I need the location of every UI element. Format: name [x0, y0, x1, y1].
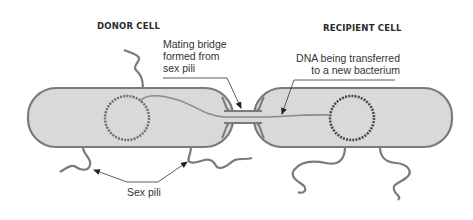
- dna-transfer-annotation: DNA being transferred to a new bacterium: [296, 52, 400, 76]
- conjugation-diagram: [0, 0, 473, 220]
- mating-bridge-line2: formed from: [163, 50, 227, 62]
- mating-bridge-line3: sex pili: [163, 62, 227, 74]
- dna-transfer-line1: DNA being transferred: [296, 52, 400, 64]
- dna-transfer-line2: to a new bacterium: [296, 64, 400, 76]
- recipient-cell-label: RECIPIENT CELL: [323, 22, 402, 34]
- mating-bridge-annotation: Mating bridge formed from sex pili: [163, 38, 227, 74]
- sex-pili-label: Sex pili: [127, 186, 161, 198]
- sex-pili-leader-left: [94, 170, 127, 182]
- donor-cell-label: DONOR CELL: [97, 20, 160, 32]
- donor-bottom-right-pilus: [188, 147, 252, 168]
- donor-top-pilus: [124, 50, 143, 88]
- recipient-bottom-left-pilus: [293, 147, 345, 193]
- donor-bottom-left-pilus: [60, 147, 90, 172]
- recipient-bottom-right-pilus: [380, 147, 410, 200]
- mating-bridge-line1: Mating bridge: [163, 38, 227, 50]
- sex-pili-leader-right: [158, 162, 187, 182]
